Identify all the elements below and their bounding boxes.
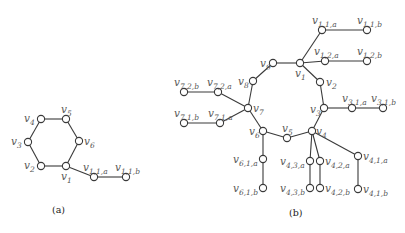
node-v42b xyxy=(316,184,323,191)
node-label-v11b: v1,1,b xyxy=(357,14,382,29)
node-label-v31a: v3,1,a xyxy=(342,92,367,107)
node-label-v9: v9 xyxy=(260,57,271,72)
node-label-v42b: v4,2,b xyxy=(325,182,350,197)
panel-b-graph: v1v2v3v4v5v6v7v8v9v1,1,av1,1,bv1,2,av1,2… xyxy=(174,14,396,218)
node-v6 xyxy=(259,127,266,134)
node-v1 xyxy=(62,162,69,169)
node-v2 xyxy=(37,162,44,169)
node-label-v8: v8 xyxy=(238,75,249,90)
node-v41a xyxy=(354,152,361,159)
node-label-v31b: v3,1,b xyxy=(371,92,396,107)
node-label-v5: v5 xyxy=(282,122,293,137)
node-label-v12a: v1,2,a xyxy=(314,45,339,60)
node-label-v11b: v1,1,b xyxy=(115,161,140,176)
edge-v6-v1 xyxy=(66,141,79,166)
node-label-v4: v4 xyxy=(24,112,35,127)
node-v4 xyxy=(308,127,315,134)
node-label-v72a: v7,2,a xyxy=(207,76,232,91)
node-label-v71b: v7,1,b xyxy=(174,107,199,122)
panel-a-graph: v1v2v3v4v5v6v1,1,av1,1,b(a) xyxy=(11,103,140,215)
node-v6 xyxy=(75,137,82,144)
node-label-v4: v4 xyxy=(316,125,327,140)
node-v42a xyxy=(316,157,323,164)
node-label-v42a: v4,2,a xyxy=(325,155,350,170)
edge-v7-v72a xyxy=(218,92,248,108)
node-v3 xyxy=(24,138,31,145)
node-label-v5: v5 xyxy=(61,103,72,118)
node-v2 xyxy=(316,78,323,85)
node-label-v3: v3 xyxy=(11,135,22,150)
node-v61b xyxy=(259,184,266,191)
node-label-v71a: v7,1,a xyxy=(208,107,233,122)
node-label-v2: v2 xyxy=(24,159,35,174)
node-v7 xyxy=(244,104,251,111)
node-label-v72b: v7,2,b xyxy=(174,76,199,91)
node-v61a xyxy=(259,155,266,162)
node-v43b xyxy=(306,184,313,191)
node-label-v3: v3 xyxy=(310,103,321,118)
node-label-v41a: v4,1,a xyxy=(363,150,388,165)
edge-v4-v43a xyxy=(310,131,312,161)
node-label-v43a: v4,3,a xyxy=(280,155,305,170)
node-v8 xyxy=(249,77,256,84)
node-label-v61b: v6,1,b xyxy=(233,182,258,197)
node-label-v61a: v6,1,a xyxy=(233,153,258,168)
node-label-v41b: v4,1,b xyxy=(363,183,388,198)
node-label-v11a: v1,1,a xyxy=(312,14,337,29)
node-label-v1: v1 xyxy=(295,67,306,82)
node-label-v6: v6 xyxy=(84,135,95,150)
node-v41b xyxy=(354,185,361,192)
node-v1 xyxy=(296,59,303,66)
node-label-v1: v1 xyxy=(61,170,72,185)
node-label-v6: v6 xyxy=(249,125,260,140)
panel-caption: (a) xyxy=(52,204,65,215)
node-v43a xyxy=(306,157,313,164)
graph-figure: v1v2v3v4v5v6v1,1,av1,1,b(a) v1v2v3v4v5v6… xyxy=(0,0,405,233)
node-v4 xyxy=(37,115,44,122)
node-label-v43b: v4,3,b xyxy=(280,182,305,197)
node-label-v2: v2 xyxy=(326,76,337,91)
node-label-v11a: v1,1,a xyxy=(83,161,108,176)
node-label-v12b: v1,2,b xyxy=(357,45,382,60)
node-label-v7: v7 xyxy=(253,102,264,117)
node-v3 xyxy=(320,104,327,111)
panel-caption: (b) xyxy=(289,207,303,218)
